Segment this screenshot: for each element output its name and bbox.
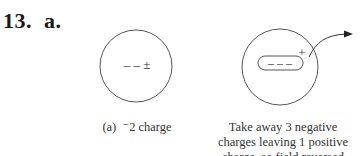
removal-arrow-path: [309, 34, 346, 57]
figure-a-caption-prefix: (a): [102, 120, 116, 134]
arrow-head-icon: [344, 31, 353, 38]
figure-b-positive-charge: +: [299, 46, 306, 60]
figure-b-caption-line-1: Take away 3 negative: [208, 120, 358, 135]
figure-a-caption-text: ⁻2 charge: [123, 120, 172, 134]
figure-a-charges: – – ±: [123, 57, 151, 72]
figure-b-negative-charges: – – –: [267, 56, 293, 70]
figure-b-caption: Take away 3 negative charges leaving 1 p…: [208, 120, 358, 156]
figure-a-caption: (a) ⁻2 charge: [87, 120, 187, 135]
figure-b-caption-line-3: charge, so field reversed: [208, 150, 358, 156]
figure-b-caption-line-2: charges leaving 1 positive: [208, 135, 358, 150]
